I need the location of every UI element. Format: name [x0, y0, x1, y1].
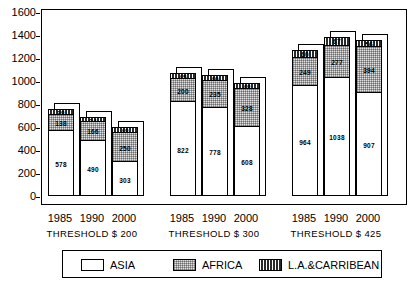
bar-value-la-carribean: 67 — [325, 38, 349, 44]
legend-swatch-asia — [81, 259, 104, 271]
legend-label: ASIA — [110, 259, 135, 271]
bar-segment-africa: 277 — [324, 45, 350, 77]
bar-segment-africa: 200 — [170, 78, 196, 101]
bar-segment-asia: 964 — [292, 85, 318, 196]
y-axis-tick-mark — [36, 59, 40, 60]
bar-value-africa: 394 — [357, 67, 381, 74]
y-axis-tick-mark — [36, 13, 40, 14]
bar-segment-africa: 166 — [80, 121, 106, 140]
bar-value-africa: 166 — [81, 128, 105, 135]
x-axis-threshold-label: THRESHOLD $ 425 — [261, 228, 411, 239]
y-axis-tick-mark — [36, 128, 40, 129]
plot-area: 5781383849016634303250488222004577823540… — [41, 9, 407, 205]
x-axis: 198519902000THRESHOLD $ 200198519902000T… — [0, 206, 414, 246]
y-axis-tick-label: 1200 — [2, 53, 36, 64]
x-axis-year-label: 2000 — [104, 212, 144, 224]
bar-value-africa: 138 — [49, 120, 73, 127]
bar-segment-la-carribean: 67 — [324, 37, 350, 45]
bar-stack: 30325048 — [112, 127, 138, 196]
y-axis-tick-mark — [36, 197, 40, 198]
legend-item-africa[interactable]: AFRICA — [173, 258, 242, 271]
bar-segment-africa: 249 — [292, 57, 318, 86]
bar-segment-la-carribean: 60 — [292, 50, 318, 57]
bar-value-asia: 778 — [203, 149, 227, 156]
bar-value-la-carribean: 34 — [81, 118, 105, 121]
bar-value-africa: 277 — [325, 59, 349, 66]
x-axis-year-label: 2000 — [348, 212, 388, 224]
bar-value-la-carribean: 38 — [49, 110, 73, 113]
bar-stack: 90739456 — [356, 40, 382, 196]
bar-segment-asia: 608 — [234, 126, 260, 196]
bar-value-africa: 250 — [113, 145, 137, 152]
bar-value-la-carribean: 60 — [293, 51, 317, 57]
bar-stack: 103827767 — [324, 37, 350, 196]
bar-value-asia: 907 — [357, 142, 381, 149]
y-axis-tick-label: 1400 — [2, 30, 36, 41]
y-axis-tick-mark — [36, 82, 40, 83]
x-axis-year-label: 2000 — [226, 212, 266, 224]
chart-legend: ASIAAFRICAL.A.&CARRIBEAN — [62, 250, 382, 278]
bar-value-la-carribean: 40 — [203, 76, 227, 80]
y-axis-tick-label: 1600 — [2, 7, 36, 18]
bar-value-la-carribean: 48 — [235, 84, 259, 89]
bar-segment-la-carribean: 48 — [112, 127, 138, 133]
legend-swatch-africa — [173, 259, 196, 271]
bar-segment-la-carribean: 34 — [80, 117, 106, 121]
y-axis-tick-label: 0 — [2, 191, 36, 202]
stacked-bar-chart: 16001400120010008006004002000 5781383849… — [0, 0, 414, 287]
bar-value-asia: 1038 — [325, 134, 349, 141]
bar-segment-africa: 328 — [234, 88, 260, 126]
y-axis-tick-mark — [36, 174, 40, 175]
legend-label: L.A.&CARRIBEAN — [288, 259, 379, 271]
bar-value-la-carribean: 56 — [357, 41, 381, 46]
bar-segment-asia: 1038 — [324, 77, 350, 196]
bar-value-asia: 578 — [49, 161, 73, 168]
y-axis-tick-label: 600 — [2, 122, 36, 133]
bar-value-la-carribean: 48 — [113, 128, 137, 133]
bar-stack: 60832848 — [234, 83, 260, 196]
bar-value-la-carribean: 45 — [171, 74, 195, 78]
bar-segment-asia: 578 — [48, 130, 74, 196]
bar-value-asia: 822 — [171, 147, 195, 154]
bar-segment-africa: 394 — [356, 46, 382, 91]
bar-value-asia: 964 — [293, 139, 317, 146]
bar-value-africa: 328 — [235, 105, 259, 112]
bar-segment-africa: 250 — [112, 132, 138, 161]
y-axis-tick-mark — [36, 36, 40, 37]
bar-segment-la-carribean: 40 — [202, 75, 228, 80]
bar-segment-africa: 235 — [202, 80, 228, 107]
bar-segment-asia: 490 — [80, 140, 106, 196]
bar-value-africa: 249 — [293, 69, 317, 76]
bar-value-asia: 303 — [113, 177, 137, 184]
bar-segment-la-carribean: 56 — [356, 40, 382, 46]
legend-swatch-la — [259, 259, 282, 271]
bar-value-africa: 235 — [203, 91, 227, 98]
bar-segment-la-carribean: 38 — [48, 109, 74, 113]
y-axis-tick-mark — [36, 151, 40, 152]
legend-label: AFRICA — [202, 259, 242, 271]
bar-segment-asia: 778 — [202, 107, 228, 196]
bar-stack: 57813838 — [48, 109, 74, 196]
bar-value-africa: 200 — [171, 88, 195, 95]
bar-segment-la-carribean: 45 — [170, 73, 196, 78]
y-axis-tick-label: 200 — [2, 168, 36, 179]
bar-segment-asia: 822 — [170, 101, 196, 196]
bar-segment-asia: 907 — [356, 92, 382, 196]
y-axis-tick-label: 400 — [2, 145, 36, 156]
y-axis-tick-mark — [36, 105, 40, 106]
bar-value-asia: 608 — [235, 159, 259, 166]
bar-stack: 77823540 — [202, 75, 228, 196]
legend-item-la[interactable]: L.A.&CARRIBEAN — [259, 258, 379, 271]
y-axis-tick-label: 1000 — [2, 76, 36, 87]
y-axis-tick-label: 800 — [2, 99, 36, 110]
bar-segment-asia: 303 — [112, 161, 138, 196]
bar-segment-la-carribean: 48 — [234, 83, 260, 89]
legend-item-asia[interactable]: ASIA — [81, 258, 135, 271]
bar-stack: 96424960 — [292, 50, 318, 196]
bar-value-asia: 490 — [81, 166, 105, 173]
bar-stack: 82220045 — [170, 73, 196, 196]
bar-segment-africa: 138 — [48, 114, 74, 130]
bar-stack: 49016634 — [80, 117, 106, 196]
